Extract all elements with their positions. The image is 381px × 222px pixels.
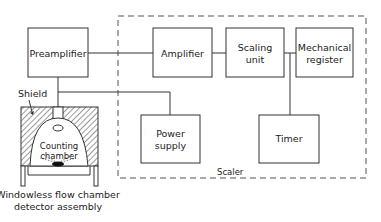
chamber-label: Counting <box>40 141 78 151</box>
block-label: register <box>306 54 343 65</box>
detector-caption: Windowless flow chamber <box>0 189 120 200</box>
block-timer: Timer <box>259 115 319 163</box>
block-label: unit <box>246 54 265 65</box>
block-preamplifier: Preamplifier <box>28 28 88 77</box>
scaler-label: Scaler <box>217 167 244 177</box>
block-label: Preamplifier <box>29 48 86 59</box>
detector-caption: detector assembly <box>14 201 103 212</box>
block-mechanical-register: Mechanical register <box>296 28 353 77</box>
detector-assembly: Shield Counting chamber Windowless flow … <box>0 88 120 212</box>
block-diagram: Scaler Preamplifier Amplifier Scaling un… <box>0 0 381 222</box>
block-label: Amplifier <box>161 48 204 59</box>
block-label: Mechanical <box>298 42 351 53</box>
block-label: Power <box>156 128 185 139</box>
block-label: Scaling <box>238 42 272 53</box>
block-scaling-unit: Scaling unit <box>226 28 284 77</box>
shield-label: Shield <box>18 88 47 99</box>
block-power-supply: Power supply <box>141 115 200 163</box>
block-label: Timer <box>274 133 302 144</box>
block-label: supply <box>155 140 187 151</box>
block-amplifier: Amplifier <box>153 28 212 77</box>
